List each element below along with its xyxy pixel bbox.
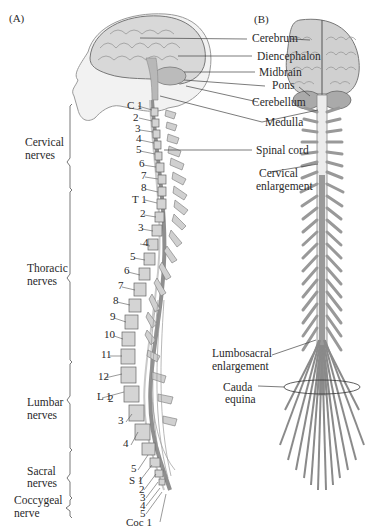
label-thoracic-nerves-2: nerves xyxy=(27,275,57,288)
vertebra-t10: 10 xyxy=(104,328,115,341)
vertebra-t9: 9 xyxy=(110,310,116,323)
label-medulla: Medulla xyxy=(265,116,303,129)
label-coccygeal-nerve-1: Coccygeal xyxy=(14,494,63,507)
vertebra-t2: 2 xyxy=(140,207,146,220)
vertebra-t11: 11 xyxy=(101,348,112,361)
vertebra-l2: 2 xyxy=(108,392,114,405)
vertebra-t8: 8 xyxy=(113,294,119,307)
cerebellum-sagittal xyxy=(154,67,186,85)
panel-label-a: (A) xyxy=(9,12,24,25)
vertebra-t1: T 1 xyxy=(132,193,147,206)
label-lumbar-nerves-2: nerves xyxy=(27,409,57,422)
label-cervical-nerves-2: nerves xyxy=(25,149,55,162)
vertebra-l4: 4 xyxy=(123,437,129,450)
label-diencephalon: Diencephalon xyxy=(257,50,321,63)
label-lumbosacral-enlargement-2: enlargement xyxy=(212,360,269,373)
label-thoracic-nerves-1: Thoracic xyxy=(27,262,68,275)
label-cervical-enlargement-1: Cervical xyxy=(259,167,298,180)
label-cervical-enlargement-2: enlargement xyxy=(256,180,313,193)
label-cervical-nerves-1: Cervical xyxy=(25,136,64,149)
vertebra-t5: 5 xyxy=(130,250,136,263)
vertebra-t4: 4 xyxy=(143,236,149,249)
nerve-group-brackets xyxy=(66,104,72,518)
label-cerebellum: Cerebellum xyxy=(252,96,306,109)
label-lumbosacral-enlargement-1: Lumbosacral xyxy=(212,347,272,360)
vertebra-c5: 5 xyxy=(136,143,142,156)
panel-label-b: (B) xyxy=(254,13,269,26)
label-midbrain: Midbrain xyxy=(259,66,302,79)
vertebra-t6: 6 xyxy=(124,264,130,277)
label-sacral-nerves-2: nerves xyxy=(27,477,57,490)
vertebra-t12: 12 xyxy=(98,370,109,383)
label-lumbar-nerves-1: Lumbar xyxy=(27,396,63,409)
label-spinal-cord: Spinal cord xyxy=(256,144,309,157)
label-pons: Pons xyxy=(272,79,294,92)
label-cauda-equina-2: equina xyxy=(225,393,256,406)
vertebra-coc1: Coc 1 xyxy=(126,516,152,527)
vertebra-t3: 3 xyxy=(138,221,144,234)
label-coccygeal-nerve-2: nerve xyxy=(14,507,40,520)
vertebra-t7: 7 xyxy=(118,279,124,292)
vertebra-l3: 3 xyxy=(118,414,124,427)
brain-sagittal xyxy=(90,16,205,84)
label-cerebrum: Cerebrum xyxy=(252,32,298,45)
